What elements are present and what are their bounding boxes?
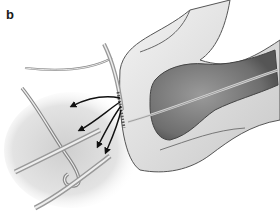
medical-illustration (0, 0, 280, 214)
shadow-region (4, 92, 140, 208)
